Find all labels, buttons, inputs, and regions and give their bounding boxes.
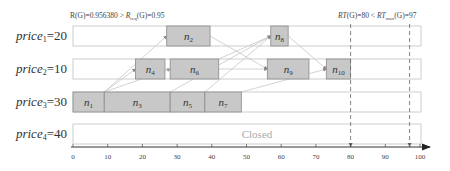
row-label: price3=30 [15,94,67,110]
row-label: price1=20 [15,28,67,44]
x-axis: 0102030405060708090100 [71,144,430,161]
task-n9: n9 [267,59,309,79]
axis-tick-label: 30 [174,153,182,161]
axis-tick-label: 80 [347,153,355,161]
row-label: price2=10 [15,61,67,77]
task-n3: n3 [104,92,170,112]
task-n1: n1 [73,92,104,112]
axis-tick-label: 100 [415,153,426,161]
row-track [73,26,421,46]
axis-tick-label: 90 [382,153,390,161]
task-n4: n4 [135,59,164,79]
row-price1: price1=20 [15,26,421,46]
row-status: Closed [242,128,273,140]
axis-tick-label: 10 [104,153,112,161]
task-n6: n6 [170,59,219,79]
axis-tick-label: 20 [139,153,147,161]
axis-tick-label: 50 [243,153,251,161]
axis-tick-label: 40 [208,153,216,161]
axis-tick-label: 60 [278,153,286,161]
task-n2: n2 [167,26,210,46]
task-n10: n10 [326,59,350,79]
axis-tick-label: 0 [71,153,75,161]
reliability-annotation: R(G)=0.956380 > Rreq(G)=0.95 [70,11,165,21]
task-n8: n8 [271,26,288,46]
task-n7: n7 [205,92,241,112]
row-label: price4=40 [15,126,67,142]
axis-tick-label: 70 [312,153,320,161]
response-time-annotation: RT(G)=80 < RTmax(G)=97 [337,11,417,21]
row-price4: price4=40Closed [15,124,421,144]
gantt-diagram: price1=20price2=10price3=30price4=40Clos… [0,0,450,171]
task-n5: n5 [170,92,205,112]
rows-layer: price1=20price2=10price3=30price4=40Clos… [15,26,421,144]
